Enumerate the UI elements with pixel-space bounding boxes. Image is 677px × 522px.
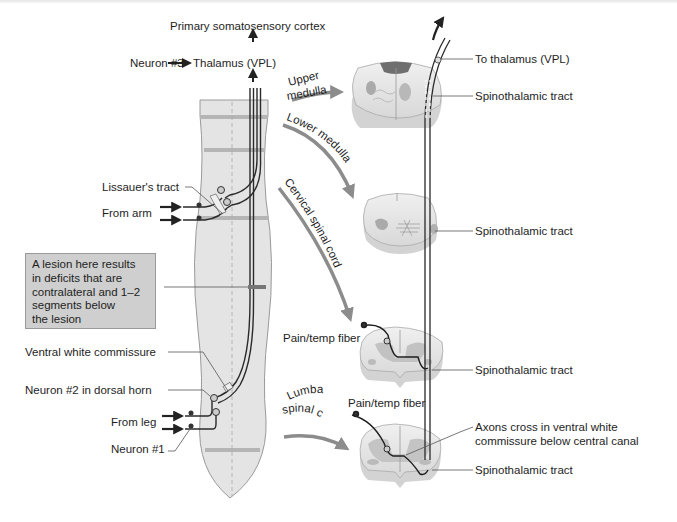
section-upper-medulla [352,62,442,129]
label-from-leg: From leg [111,416,156,429]
label-pain-temp-fiber-cervical: Pain/temp fiber [283,332,360,345]
lesion-note-line: A lesion here results [32,258,149,272]
label-lissauers-tract: Lissauer's tract [102,181,179,194]
label-ventral-white-commissure: Ventral white commissure [25,346,156,359]
label-spinothalamic-lower-medulla: Spinothalamic tract [475,225,573,238]
label-neuron-2-dorsal-horn: Neuron #2 in dorsal horn [25,384,152,397]
label-primary-somatosensory-cortex: Primary somatosensory cortex [170,20,325,33]
lesion-note-line: segments below [32,299,149,313]
ascending-arrows [168,30,253,82]
label-lower-medulla: Lower medulla [285,111,354,165]
label-spinothalamic-lumbar: Spinothalamic tract [475,464,573,477]
label-thalamus-vpl: Thalamus (VPL) [193,57,276,70]
lesion-note-box: A lesion here results in deficits that a… [25,253,156,329]
label-spinothalamic-upper-medulla: Spinothalamic tract [475,90,573,103]
label-spinothalamic-cervical: Spinothalamic tract [475,364,573,377]
section-lower-medulla [363,193,438,254]
label-from-arm: From arm [102,207,152,220]
label-axons-cross-line2: commissure below central canal [475,435,639,448]
label-neuron-3: Neuron #3 [130,57,184,70]
label-axons-cross-line1: Axons cross in ventral white [475,421,618,434]
lesion-note-line: the lesion [32,313,149,327]
label-to-thalamus-vpl: To thalamus (VPL) [475,53,570,66]
lesion-note-line: contralateral and 1–2 [32,286,149,300]
label-pain-temp-fiber-lumbar: Pain/temp fiber [348,397,425,410]
label-cervical-spinal-cord: Cervical spinal cord [282,176,343,269]
lesion-note-line: in deficits that are [32,272,149,286]
label-neuron-1: Neuron #1 [111,443,165,456]
